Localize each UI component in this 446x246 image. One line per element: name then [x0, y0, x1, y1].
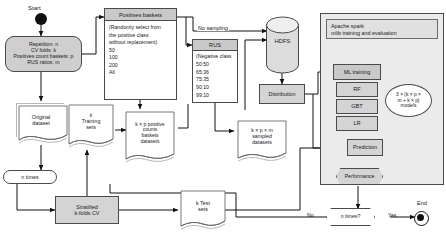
algorithm-rf[interactable]: RF — [336, 82, 378, 97]
sampled-datasets-doc[interactable]: k × p × m sampled datasets — [234, 117, 290, 165]
hdfs-node[interactable]: HDFS — [265, 16, 300, 74]
sampled-line3: datasets — [252, 140, 272, 146]
rus-ratio-4[interactable]: 90:10 — [196, 84, 234, 92]
test-sets-line2: sets — [198, 206, 208, 212]
start-label: Start — [28, 5, 41, 11]
original-dataset-doc[interactable]: Original dataset — [14, 101, 68, 145]
stratified-line2: k-folds CV — [75, 210, 100, 216]
rus-ratio-2[interactable]: 65:36 — [196, 69, 234, 77]
positives-note-1: (Randomly select from — [109, 24, 172, 32]
edge-label-no: No — [307, 212, 314, 218]
edge-label-yes: Yes — [388, 212, 396, 218]
training-sets-line3: sets — [86, 125, 96, 131]
hdfs-label: HDFS — [265, 38, 300, 44]
n-times-label: n times — [21, 174, 38, 180]
prediction-label: Prediction — [353, 144, 377, 150]
positive-counts-line4: datasets — [141, 139, 160, 145]
algorithm-gbt[interactable]: GBT — [336, 99, 378, 114]
end-label: End — [417, 200, 427, 206]
parameters-node[interactable]: Repetition: n CV folds: k Positives coun… — [5, 36, 82, 72]
positives-note-2: the positive class — [109, 32, 172, 40]
positives-option-200[interactable]: 200 — [109, 62, 172, 70]
start-node[interactable] — [35, 13, 47, 25]
n-times-decision-node[interactable]: n times? — [326, 208, 375, 226]
rus-panel[interactable]: RUS (Negative class 50:50 65:36 75:35 90… — [192, 39, 238, 103]
rus-header: RUS — [193, 40, 237, 51]
training-sets-doc[interactable]: k Training sets — [65, 101, 117, 151]
positives-baskets-panel[interactable]: Positives baskets (Randomly select from … — [104, 8, 177, 100]
test-sets-doc[interactable]: k Test sets — [178, 188, 228, 234]
ml-training-node[interactable]: ML training — [333, 64, 381, 80]
performance-node[interactable]: Performance — [336, 168, 383, 185]
spark-header-line1: Apache spark — [331, 23, 433, 30]
algorithm-rf-label: RF — [353, 86, 360, 92]
no-sampling-label: No sampling — [197, 25, 229, 31]
positives-baskets-header: Positives baskets — [105, 9, 176, 21]
n-times-loop-node[interactable]: n times — [3, 170, 57, 184]
rus-ratio-5[interactable]: 99:10 — [196, 92, 234, 100]
algorithm-lr-label: LR — [353, 120, 360, 126]
algorithm-lr[interactable]: LR — [336, 116, 378, 131]
spark-header-line2: mlib training and evaluation — [331, 30, 433, 37]
models-count-node: 3 × (k × p × m + k × p) models — [385, 84, 432, 117]
end-node-inner — [417, 214, 424, 221]
distribution-label: Distribution — [269, 91, 296, 97]
algorithm-gbt-label: GBT — [351, 103, 363, 109]
param-rus-ratios: RUS ratios: m — [27, 60, 59, 66]
positives-option-100[interactable]: 100 — [109, 54, 172, 62]
distribution-node[interactable]: Distribution — [259, 84, 305, 104]
positives-option-50[interactable]: 50 — [109, 47, 172, 55]
models-line-3: models — [401, 103, 417, 108]
prediction-node[interactable]: Prediction — [347, 139, 383, 156]
original-dataset-line2: dataset — [32, 120, 50, 126]
positives-option-all[interactable]: All — [109, 69, 172, 77]
stratified-cv-node[interactable]: Stratified k-folds CV — [55, 196, 119, 224]
spark-header: Apache spark mlib training and evaluatio… — [326, 19, 438, 39]
performance-label: Performance — [345, 174, 375, 180]
positives-note-3: without replacement) — [109, 39, 172, 47]
rus-note: (Negative class — [196, 53, 234, 61]
rus-ratio-1[interactable]: 50:50 — [196, 61, 234, 69]
ml-training-label: ML training — [344, 69, 370, 75]
positive-counts-baskets-doc[interactable]: k × p positive counts baskets datasets — [112, 108, 178, 168]
rus-ratio-3[interactable]: 75:35 — [196, 76, 234, 84]
n-times-decision-label: n times? — [341, 214, 361, 220]
